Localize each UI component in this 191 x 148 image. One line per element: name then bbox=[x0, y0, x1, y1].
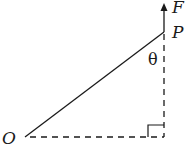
force-arrow-head-icon bbox=[161, 3, 168, 11]
label-angle-theta: θ bbox=[148, 52, 158, 68]
label-origin: O bbox=[2, 130, 16, 147]
force-diagram: O P F θ bbox=[0, 0, 191, 148]
right-angle-marker bbox=[148, 125, 164, 137]
label-point: P bbox=[172, 24, 183, 41]
segment-op bbox=[25, 32, 164, 137]
label-force: F bbox=[172, 0, 184, 16]
diagram-svg bbox=[0, 0, 191, 148]
